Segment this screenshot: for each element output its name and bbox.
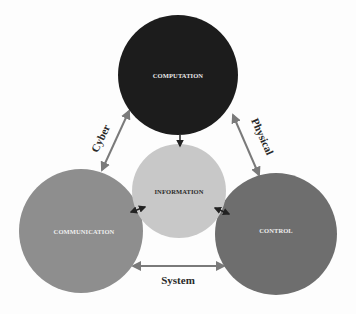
cps-diagram: COMPUTATION COMMUNICATION CONTROL INFORM… <box>0 0 356 314</box>
edge-cyber <box>102 111 129 170</box>
label-communication: COMMUNICATION <box>54 228 115 235</box>
label-system: System <box>161 274 195 286</box>
label-physical: Physical <box>249 116 276 157</box>
label-computation: COMPUTATION <box>153 72 204 79</box>
label-information: INFORMATION <box>154 188 203 195</box>
node-control <box>215 173 337 295</box>
label-control: CONTROL <box>259 227 293 234</box>
label-cyber: Cyber <box>89 122 113 154</box>
